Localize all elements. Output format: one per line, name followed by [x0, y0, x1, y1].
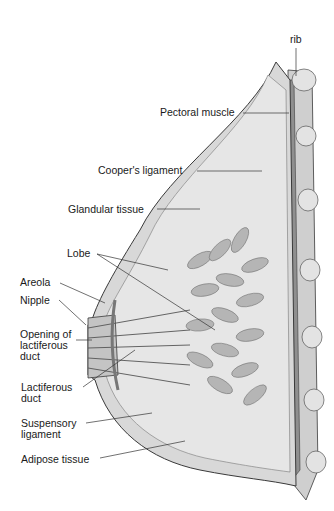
rib-icon [298, 189, 318, 211]
label-opening-of-lactiferous-duct: Opening of lactiferous duct [20, 329, 71, 362]
breast-body [88, 62, 296, 486]
label-glandular-tissue: Glandular tissue [68, 204, 144, 215]
rib-icon [292, 69, 316, 91]
rib-icon [300, 259, 320, 281]
label-areola: Areola [20, 277, 50, 288]
rib-icon [304, 389, 324, 411]
label-pectoral-muscle: Pectoral muscle [160, 107, 235, 118]
label-nipple: Nipple [20, 295, 50, 306]
label-lactiferous-duct: Lactiferous duct [21, 382, 72, 404]
label-rib: rib [290, 34, 302, 45]
label-suspensory-ligament: Suspensory ligament [21, 418, 76, 440]
label-coopers-ligament: Cooper's ligament [98, 165, 182, 176]
rib-icon [296, 126, 316, 146]
rib-icon [306, 451, 326, 473]
label-adipose-tissue: Adipose tissue [21, 454, 89, 465]
rib-icon [302, 326, 322, 348]
label-lobe: Lobe [67, 248, 90, 259]
